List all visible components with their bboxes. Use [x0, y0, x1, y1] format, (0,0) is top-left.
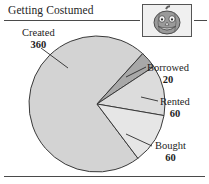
slice-label-created-name: Created — [22, 27, 55, 38]
slice-label-borrowed-value: 20 — [147, 74, 189, 86]
slice-label-rented-name: Rented — [160, 96, 190, 107]
slice-label-borrowed: Borrowed 20 — [147, 62, 189, 85]
pie-chart-figure: Getting Costumed — [0, 0, 209, 184]
slice-label-created: Created 360 — [22, 27, 55, 50]
slice-label-bought-name: Bought — [155, 140, 186, 151]
slice-label-bought-value: 60 — [155, 152, 186, 164]
footer-rule — [4, 176, 205, 177]
slice-label-borrowed-name: Borrowed — [147, 62, 189, 73]
slice-label-created-value: 360 — [22, 39, 55, 51]
slice-label-rented: Rented 60 — [160, 96, 190, 119]
slice-label-bought: Bought 60 — [155, 140, 186, 163]
slice-label-rented-value: 60 — [160, 108, 190, 120]
